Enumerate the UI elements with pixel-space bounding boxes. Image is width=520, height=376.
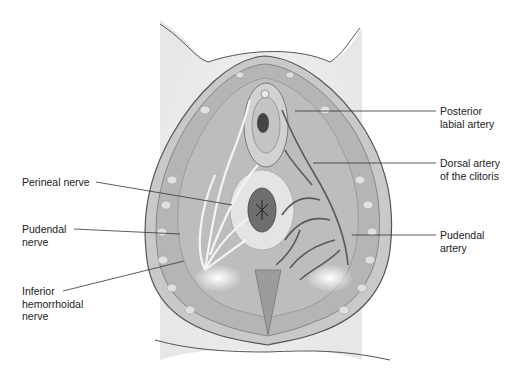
label-posterior-labial-artery: Posterior labial artery [440, 105, 494, 130]
label-pudendal-artery: Pudendal artery [440, 229, 484, 254]
label-perineal-nerve: Perineal nerve [22, 176, 90, 189]
label-pudendal-nerve: Pudendal nerve [22, 223, 66, 248]
perineum-diagram: Perineal nerve Pudendal nerve Inferior h… [0, 0, 520, 376]
label-dorsal-artery-clitoris: Dorsal artery of the clitoris [440, 157, 500, 182]
label-inferior-hemorrhoidal-nerve: Inferior hemorrhoidal nerve [22, 285, 83, 323]
